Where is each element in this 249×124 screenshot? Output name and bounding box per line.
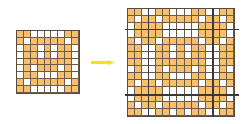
empty-cell — [220, 38, 227, 45]
tile-boundary-vertical — [148, 8, 150, 117]
filled-cell — [170, 38, 177, 45]
filled-cell — [128, 80, 135, 87]
filled-cell — [220, 9, 227, 16]
filled-cell — [177, 102, 184, 109]
filled-cell — [72, 86, 79, 93]
filled-cell — [17, 86, 24, 93]
filled-cell — [65, 52, 72, 59]
empty-cell — [163, 30, 170, 37]
empty-cell — [170, 9, 177, 16]
empty-cell — [45, 86, 52, 93]
filled-cell — [177, 52, 184, 59]
filled-cell — [185, 102, 192, 109]
filled-cell — [51, 38, 58, 45]
filled-cell — [199, 59, 206, 66]
filled-cell — [170, 59, 177, 66]
filled-cell — [156, 73, 163, 80]
filled-cell — [135, 59, 142, 66]
empty-cell — [177, 30, 184, 37]
empty-cell — [58, 31, 65, 38]
filled-cell — [220, 52, 227, 59]
filled-cell — [192, 73, 199, 80]
empty-cell — [31, 31, 38, 38]
filled-cell — [156, 45, 163, 52]
empty-cell — [128, 30, 135, 37]
filled-cell — [185, 66, 192, 73]
filled-cell — [128, 52, 135, 59]
filled-cell — [177, 80, 184, 87]
empty-cell — [135, 38, 142, 45]
empty-cell — [149, 9, 156, 16]
filled-cell — [163, 9, 170, 16]
filled-cell — [135, 109, 142, 116]
empty-cell — [45, 31, 52, 38]
filled-cell — [192, 52, 199, 59]
filled-cell — [45, 38, 52, 45]
filled-cell — [156, 9, 163, 16]
filled-cell — [128, 73, 135, 80]
empty-cell — [177, 9, 184, 16]
filled-cell — [163, 102, 170, 109]
empty-cell — [192, 66, 199, 73]
source-tile-grid — [16, 30, 80, 94]
filled-cell — [185, 59, 192, 66]
filled-cell — [58, 45, 65, 52]
filled-cell — [72, 79, 79, 86]
empty-cell — [38, 31, 45, 38]
empty-cell — [128, 66, 135, 73]
filled-cell — [51, 59, 58, 66]
empty-cell — [65, 79, 72, 86]
filled-cell — [163, 38, 170, 45]
tile-boundary-horizontal — [125, 94, 239, 96]
filled-cell — [31, 52, 38, 59]
filled-cell — [220, 30, 227, 37]
empty-cell — [220, 80, 227, 87]
filled-cell — [227, 73, 234, 80]
filled-cell — [227, 109, 234, 116]
filled-cell — [185, 38, 192, 45]
tile-boundary-horizontal — [125, 29, 239, 31]
filled-cell — [38, 79, 45, 86]
filled-cell — [227, 16, 234, 23]
filled-cell — [227, 52, 234, 59]
empty-cell — [170, 109, 177, 116]
filled-cell — [177, 59, 184, 66]
filled-cell — [72, 31, 79, 38]
filled-cell — [220, 59, 227, 66]
filled-cell — [163, 45, 170, 52]
empty-cell — [199, 16, 206, 23]
filled-cell — [192, 16, 199, 23]
empty-cell — [58, 65, 65, 72]
filled-cell — [45, 59, 52, 66]
empty-cell — [45, 72, 52, 79]
filled-cell — [149, 16, 156, 23]
filled-cell — [65, 86, 72, 93]
empty-cell — [149, 52, 156, 59]
filled-cell — [199, 109, 206, 116]
empty-cell — [185, 73, 192, 80]
empty-cell — [149, 45, 156, 52]
filled-cell — [24, 72, 31, 79]
empty-cell — [72, 52, 79, 59]
filled-cell — [58, 38, 65, 45]
filled-cell — [149, 80, 156, 87]
filled-cell — [227, 59, 234, 66]
filled-cell — [199, 45, 206, 52]
empty-cell — [135, 80, 142, 87]
filled-cell — [135, 52, 142, 59]
empty-cell — [17, 59, 24, 66]
filled-cell — [128, 9, 135, 16]
empty-cell — [156, 80, 163, 87]
filled-cell — [38, 59, 45, 66]
empty-cell — [38, 86, 45, 93]
empty-cell — [156, 16, 163, 23]
empty-cell — [227, 30, 234, 37]
filled-cell — [31, 72, 38, 79]
filled-cell — [185, 16, 192, 23]
empty-cell — [220, 16, 227, 23]
filled-cell — [170, 66, 177, 73]
empty-cell — [17, 45, 24, 52]
filled-cell — [220, 45, 227, 52]
filled-cell — [65, 65, 72, 72]
empty-cell — [17, 72, 24, 79]
